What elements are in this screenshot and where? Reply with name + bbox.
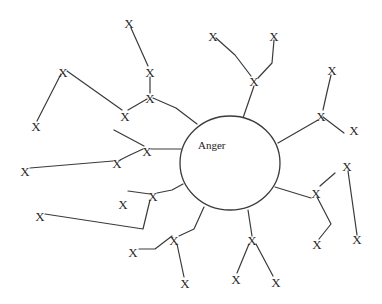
leaf-node-x[interactable]: X bbox=[271, 275, 281, 290]
anger-mind-map: Anger XXXXXXXXXXXXXXXXXXXXXXXXXXXX bbox=[0, 0, 382, 304]
connector-line bbox=[179, 207, 204, 236]
connector-line bbox=[128, 191, 150, 194]
connector-line bbox=[256, 244, 273, 276]
leaf-node-x[interactable]: X bbox=[311, 186, 321, 201]
center-node-label: Anger bbox=[198, 139, 226, 151]
connector-line bbox=[30, 161, 113, 168]
connector-line bbox=[237, 244, 249, 273]
leaf-node-x[interactable]: X bbox=[58, 65, 68, 80]
connector-line bbox=[323, 75, 331, 110]
connector-line bbox=[157, 184, 183, 193]
connector-line bbox=[120, 149, 143, 160]
connector-line bbox=[153, 98, 197, 124]
connector-line bbox=[128, 99, 147, 110]
leaf-node-x[interactable]: X bbox=[20, 164, 30, 179]
connector-line bbox=[177, 244, 184, 277]
leaf-node-x[interactable]: X bbox=[142, 144, 152, 159]
connector-line bbox=[278, 120, 318, 143]
connector-line bbox=[323, 117, 344, 133]
connector-line bbox=[317, 197, 331, 239]
connector-line bbox=[139, 236, 172, 249]
leaf-node-x[interactable]: X bbox=[352, 232, 362, 247]
connector-line bbox=[37, 74, 61, 121]
leaf-node-x[interactable]: X bbox=[145, 65, 155, 80]
leaf-node-x[interactable]: X bbox=[316, 109, 326, 124]
leaf-node-x[interactable]: X bbox=[269, 29, 279, 44]
leaf-node-x[interactable]: X bbox=[124, 16, 134, 31]
connector-line bbox=[275, 187, 311, 198]
connector-line bbox=[131, 28, 148, 66]
leaf-node-x[interactable]: X bbox=[180, 276, 190, 291]
connector-line bbox=[320, 173, 335, 186]
leaf-node-x[interactable]: X bbox=[148, 189, 158, 204]
connector-line bbox=[348, 171, 357, 235]
leaf-node-x[interactable]: X bbox=[128, 245, 138, 260]
leaf-node-x[interactable]: X bbox=[231, 272, 241, 287]
connector-line bbox=[243, 86, 254, 118]
leaf-node-x[interactable]: X bbox=[312, 237, 322, 252]
connector-line bbox=[114, 130, 144, 146]
leaf-node-x[interactable]: X bbox=[249, 74, 259, 89]
leaf-node-x[interactable]: X bbox=[120, 109, 130, 124]
leaf-node-x[interactable]: X bbox=[327, 63, 337, 78]
leaf-node-x[interactable]: X bbox=[118, 197, 128, 212]
leaf-node-x[interactable]: X bbox=[145, 91, 155, 106]
connector-line bbox=[216, 38, 251, 76]
leaf-node-x[interactable]: X bbox=[169, 233, 179, 248]
leaf-node-x[interactable]: X bbox=[247, 233, 257, 248]
center-node-circle[interactable] bbox=[180, 116, 280, 210]
connector-line bbox=[67, 71, 122, 110]
leaf-node-x[interactable]: X bbox=[31, 119, 41, 134]
connector-line bbox=[258, 40, 274, 78]
leaf-node-x[interactable]: X bbox=[342, 159, 352, 174]
connector-line bbox=[45, 200, 150, 229]
leaf-node-x[interactable]: X bbox=[112, 156, 122, 171]
leaf-node-x[interactable]: X bbox=[35, 209, 45, 224]
leaf-node-x[interactable]: X bbox=[208, 29, 218, 44]
leaf-node-x[interactable]: X bbox=[349, 123, 359, 138]
